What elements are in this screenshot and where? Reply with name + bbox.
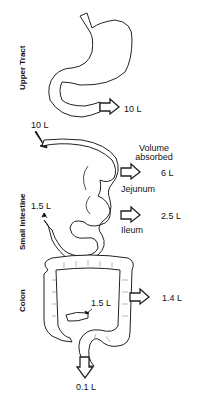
colon-absorbed-volume: 1.4 L bbox=[162, 293, 182, 303]
colon-output-volume: 0.1 L bbox=[76, 382, 96, 392]
volume-absorbed-header-line2: absorbed bbox=[135, 152, 173, 162]
section-label-colon: Colon bbox=[18, 289, 27, 312]
small-intestine-output-volume: 1.5 L bbox=[31, 201, 51, 211]
arrow-down-left-icon bbox=[85, 309, 92, 314]
upper-tract-output-volume: 10 L bbox=[124, 104, 142, 114]
arrow-right-icon bbox=[121, 164, 140, 179]
arrow-right-icon bbox=[121, 207, 140, 222]
ileum-label: Ileum bbox=[121, 225, 143, 235]
jejunum-absorbed-volume: 6 L bbox=[161, 168, 174, 178]
intestine-fold-lines bbox=[83, 166, 90, 214]
section-label-upper-tract: Upper Tract bbox=[18, 45, 27, 90]
small-intestine-input-volume: 10 L bbox=[31, 120, 49, 130]
stomach-illustration bbox=[49, 13, 132, 117]
small-intestine-illustration bbox=[42, 139, 118, 261]
ileum-absorbed-volume: 2.5 L bbox=[161, 211, 181, 221]
colon-input-volume: 1.5 L bbox=[91, 298, 111, 308]
gi-fluid-diagram: Upper Tract Small Intestine Colon 10 L 1… bbox=[0, 0, 198, 406]
colon-inner-loop bbox=[66, 312, 88, 321]
arrow-up-left-icon bbox=[42, 213, 47, 218]
section-label-small-intestine: Small Intestine bbox=[18, 193, 27, 250]
arrow-right-icon bbox=[100, 99, 119, 114]
jejunum-label: Jejunum bbox=[121, 184, 155, 194]
arrow-right-icon bbox=[130, 289, 149, 304]
colon-illustration bbox=[44, 255, 133, 366]
